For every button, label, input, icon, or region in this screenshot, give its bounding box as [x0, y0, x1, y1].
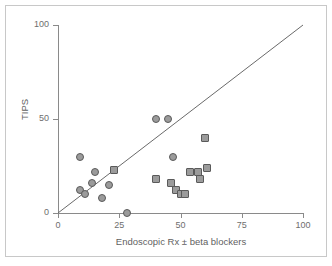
y-axis-title: TIPS	[19, 80, 30, 140]
x-tick-label-75: 75	[227, 220, 257, 230]
data-point-circle	[123, 209, 131, 217]
data-point-circle	[152, 115, 160, 123]
x-tick-25	[119, 213, 120, 218]
data-point-circle	[98, 194, 106, 202]
y-tick-50	[53, 119, 58, 120]
y-axis-line	[58, 25, 59, 214]
data-point-circle	[105, 181, 113, 189]
data-point-square	[181, 190, 189, 198]
data-point-square	[201, 134, 209, 142]
data-point-square	[152, 175, 160, 183]
x-axis-title: Endoscopic Rx ± beta blockers	[58, 236, 304, 247]
y-tick-label-100: 100	[19, 19, 49, 29]
data-point-square	[203, 164, 211, 172]
data-point-circle	[164, 115, 172, 123]
y-tick-100	[53, 25, 58, 26]
data-point-circle	[169, 153, 177, 161]
data-point-circle	[76, 153, 84, 161]
x-tick-label-100: 100	[288, 220, 318, 230]
scatter-plot-figure: 0501000255075100 Endoscopic Rx ± beta bl…	[0, 0, 332, 266]
x-tick-100	[303, 213, 304, 218]
plot-area: 0501000255075100 Endoscopic Rx ± beta bl…	[0, 0, 332, 266]
x-tick-label-50: 50	[166, 220, 196, 230]
data-point-square	[186, 168, 194, 176]
x-tick-75	[242, 213, 243, 218]
data-point-circle	[88, 179, 96, 187]
x-tick-label-25: 25	[104, 220, 134, 230]
x-tick-50	[181, 213, 182, 218]
data-point-circle	[91, 168, 99, 176]
data-point-square	[110, 166, 118, 174]
y-tick-label-0: 0	[19, 207, 49, 217]
data-point-circle	[81, 190, 89, 198]
x-tick-0	[58, 213, 59, 218]
data-point-square	[196, 175, 204, 183]
x-tick-label-0: 0	[43, 220, 73, 230]
